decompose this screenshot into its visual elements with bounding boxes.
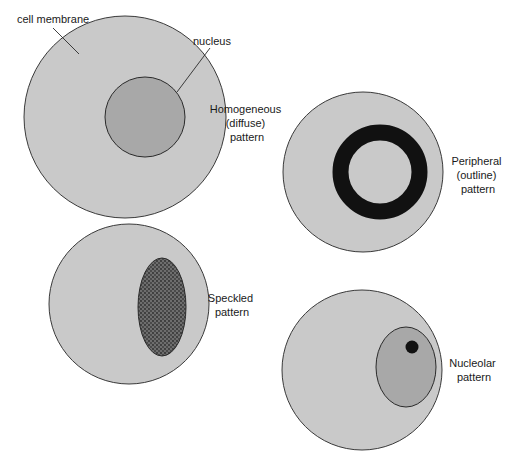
nucleolar-label-line-1: Nucleolar	[449, 357, 496, 369]
peripheral-pattern-label: Peripheral (outline) pattern	[451, 155, 504, 195]
nucleolar-cell	[282, 290, 442, 450]
nucleus-label: nucleus	[193, 35, 231, 47]
staining-patterns-diagram: cell membrane nucleus Homogeneous (diffu…	[0, 0, 515, 469]
homogeneous-label-line-3: pattern	[230, 131, 264, 143]
peripheral-label-line-1: Peripheral	[451, 155, 501, 167]
speckled-nucleus	[138, 258, 186, 356]
nucleolar-label-line-2: pattern	[457, 371, 491, 383]
nucleus-homogeneous	[105, 77, 185, 157]
speckled-label-line-2: pattern	[215, 306, 249, 318]
nucleolus-stain	[406, 341, 419, 354]
nucleolar-pattern-label: Nucleolar pattern	[449, 357, 499, 383]
cell-membrane-label: cell membrane	[17, 13, 89, 25]
homogeneous-label-line-1: Homogeneous	[210, 103, 282, 115]
nucleolar-nucleus	[376, 327, 436, 407]
speckled-cell	[49, 224, 209, 384]
peripheral-label-line-2: (outline)	[457, 169, 497, 181]
homogeneous-label-line-2: (diffuse)	[226, 117, 266, 129]
speckled-label-line-1: Speckled	[208, 292, 253, 304]
speckled-pattern-label: Speckled pattern	[208, 292, 256, 318]
peripheral-cell	[283, 92, 443, 252]
peripheral-label-line-3: pattern	[461, 183, 495, 195]
